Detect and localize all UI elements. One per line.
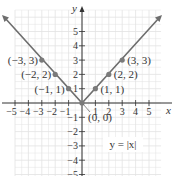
x-tick-label: −5 <box>6 106 17 117</box>
point-label: (−3, 3) <box>8 54 38 67</box>
data-point <box>93 86 98 91</box>
y-tick-label: −4 <box>67 155 78 166</box>
absolute-value-graph: −5−4−3−2−11234554321−1−2−3−4−5 xy(−3, 3)… <box>0 0 177 176</box>
x-tick-label: −3 <box>33 106 44 117</box>
point-label: (2, 2) <box>114 68 138 81</box>
y-tick-label: 2 <box>73 69 78 80</box>
y-tick-label: 5 <box>73 26 78 37</box>
data-point <box>106 72 111 77</box>
data-point <box>53 72 58 77</box>
y-tick-label: 1 <box>73 83 78 94</box>
x-tick-label: 5 <box>147 106 152 117</box>
point-label: (−1, 1) <box>35 83 65 96</box>
data-point <box>120 58 125 63</box>
y-tick-label: 4 <box>73 40 78 51</box>
data-point <box>66 86 71 91</box>
point-label: (0, 0) <box>88 111 112 124</box>
point-label: (−2, 2) <box>21 68 51 81</box>
y-axis-label: y <box>71 2 77 14</box>
plot-area: −5−4−3−2−11234554321−1−2−3−4−5 xy(−3, 3)… <box>0 0 177 176</box>
y-tick-label: −1 <box>67 112 78 123</box>
point-label: (3, 3) <box>127 54 151 67</box>
x-tick-label: 3 <box>120 106 125 117</box>
y-tick-label: −5 <box>67 169 78 176</box>
x-axis-label: x <box>165 104 171 116</box>
equation-label: y = |x| <box>109 138 136 150</box>
tick-labels: −5−4−3−2−11234554321−1−2−3−4−5 <box>6 26 151 176</box>
x-tick-label: −4 <box>20 106 31 117</box>
point-label: (1, 1) <box>100 83 124 96</box>
y-tick-label: −2 <box>67 126 78 137</box>
y-tick-label: 3 <box>73 55 78 66</box>
x-tick-label: −2 <box>46 106 57 117</box>
x-tick-label: 4 <box>133 106 138 117</box>
data-point <box>39 58 44 63</box>
y-axis-arrow-icon <box>80 6 85 12</box>
y-tick-label: −3 <box>67 140 78 151</box>
